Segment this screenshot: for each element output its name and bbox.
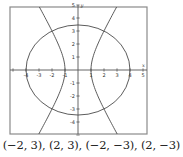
graph: -4-3-2-11234554321-1-2-3-4 x y [0, 0, 183, 140]
x-tick-label: -3 [37, 72, 42, 78]
y-axis-label: y [80, 2, 84, 9]
tick-labels: -4-3-2-11234554321-1-2-3-4 [24, 2, 145, 125]
y-tick-label: 3 [72, 28, 75, 34]
y-tick-label: -2 [70, 93, 75, 99]
x-tick-label: 5 [141, 72, 144, 78]
y-tick-label: 4 [72, 15, 75, 21]
y-tick-label: -1 [70, 80, 75, 86]
x-axis-label: x [142, 62, 145, 68]
x-tick-label: 2 [102, 72, 105, 78]
y-tick-label: -4 [70, 119, 75, 125]
y-tick-label: 2 [72, 41, 75, 47]
intersection-points-caption: (−2, 3), (2, 3), (−2, −3), (2, −3) [0, 138, 183, 152]
y-tick-label: -3 [70, 106, 75, 112]
x-tick-label: 3 [115, 72, 118, 78]
y-tick-label: 1 [72, 54, 75, 60]
y-tick-label: 5 [72, 2, 75, 8]
x-tick-label: -2 [50, 72, 55, 78]
